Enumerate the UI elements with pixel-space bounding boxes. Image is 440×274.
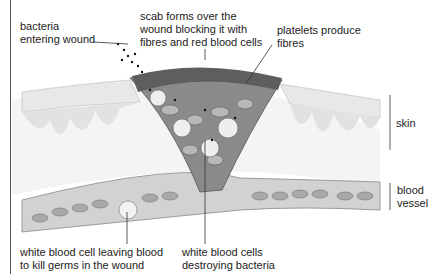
label-blood-vessel-line2: vessel (397, 197, 428, 210)
label-wbc-leaving-line1: white blood cell leaving blood (20, 246, 163, 259)
label-platelets-line2: fibres (277, 37, 361, 50)
label-wbc-leaving-line2: to kill germs in the wound (20, 259, 163, 272)
label-scab-line2: wound blocking it with (140, 23, 262, 36)
label-skin: skin (396, 117, 416, 130)
label-blood-vessel-line1: blood (397, 184, 428, 197)
label-wbc-leaving: white blood cell leaving blood to kill g… (20, 246, 163, 272)
label-scab-line3: fibres and red blood cells (140, 36, 262, 49)
label-blood-vessel: blood vessel (397, 184, 428, 210)
white-blood-cell-vessel (119, 201, 137, 219)
label-bacteria-line2: entering wound (20, 33, 95, 46)
label-skin-text: skin (396, 117, 416, 130)
label-wbc-destroying: white blood cells destroying bacteria (182, 246, 275, 272)
label-wbc-destroying-line1: white blood cells (182, 246, 275, 259)
label-scab: scab forms over the wound blocking it wi… (140, 10, 262, 49)
label-bacteria-line1: bacteria (20, 20, 95, 33)
label-bacteria: bacteria entering wound (20, 20, 95, 46)
label-wbc-destroying-line2: destroying bacteria (182, 259, 275, 272)
label-scab-line1: scab forms over the (140, 10, 262, 23)
label-platelets: platelets produce fibres (277, 24, 361, 50)
label-platelets-line1: platelets produce (277, 24, 361, 37)
